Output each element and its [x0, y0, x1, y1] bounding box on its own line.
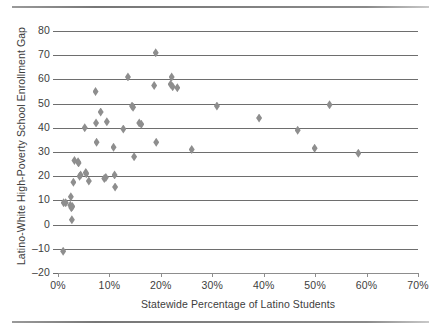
x-tick-50	[315, 273, 316, 277]
data-point	[82, 123, 88, 132]
x-tick-label-40: 40%	[241, 279, 287, 291]
y-tick-80	[53, 31, 58, 32]
data-point	[70, 178, 76, 187]
y-axis-title: Latino-White High-Poverty School Enrollm…	[15, 21, 27, 271]
data-point	[104, 117, 110, 126]
gridline-y-30	[58, 152, 418, 153]
data-point	[153, 138, 159, 147]
data-point	[86, 177, 92, 186]
x-tick-label-0: 0%	[35, 279, 81, 291]
x-tick-label-30: 30%	[189, 279, 235, 291]
x-tick-label-70: 70%	[395, 279, 441, 291]
data-point	[69, 215, 75, 224]
data-point	[120, 125, 126, 134]
data-point	[355, 149, 361, 158]
x-tick-label-10: 10%	[86, 279, 132, 291]
x-tick-10	[109, 273, 110, 277]
y-tick-10	[53, 200, 58, 201]
y-tick-20	[53, 176, 58, 177]
x-axis-line	[58, 273, 418, 274]
x-tick-label-20: 20%	[138, 279, 184, 291]
x-tick-70	[418, 273, 419, 277]
gridline-y-40	[58, 128, 418, 129]
y-tick-50	[53, 104, 58, 105]
data-point	[131, 152, 137, 161]
data-point	[93, 118, 99, 127]
data-point	[93, 87, 99, 96]
y-tick-70	[53, 55, 58, 56]
x-axis-title: Statewide Percentage of Latino Students	[58, 298, 418, 310]
y-tick-60	[53, 79, 58, 80]
x-tick-40	[264, 273, 265, 277]
data-point	[111, 143, 117, 152]
gridline-y-80	[58, 31, 418, 32]
gridline-y-20	[58, 176, 418, 177]
y-tick-40	[53, 128, 58, 129]
x-tick-60	[367, 273, 368, 277]
x-tick-label-50: 50%	[292, 279, 338, 291]
data-point	[256, 114, 262, 123]
gridline-y-70	[58, 55, 418, 56]
x-tick-20	[161, 273, 162, 277]
gridline-y-50	[58, 104, 418, 105]
data-point	[112, 183, 118, 192]
x-tick-0	[58, 273, 59, 277]
data-point	[98, 108, 104, 117]
data-point	[94, 138, 100, 147]
gridline-y-60	[58, 79, 418, 80]
y-tick-30	[53, 152, 58, 153]
data-point	[327, 100, 333, 109]
gridline-y-10	[58, 200, 418, 201]
y-tick-0	[53, 225, 58, 226]
data-point	[112, 170, 118, 179]
data-point	[174, 83, 180, 92]
y-tick--10	[53, 249, 58, 250]
scatter-plot-figure: –20–1001020304050607080 0%10%20%30%40%50…	[0, 0, 441, 331]
x-tick-30	[212, 273, 213, 277]
gridline-y--10	[58, 249, 418, 250]
gridline-y-0	[58, 225, 418, 226]
x-tick-label-60: 60%	[344, 279, 390, 291]
data-point	[151, 81, 157, 90]
